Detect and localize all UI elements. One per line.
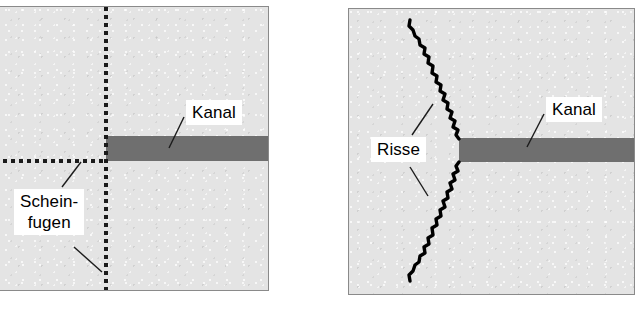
upper-crack <box>409 20 459 139</box>
channel-band-right <box>459 138 634 162</box>
channel-band-left <box>106 136 268 161</box>
label-scheinfugen-line2: fugen <box>28 213 71 232</box>
vertical-dummy-joint <box>104 7 108 290</box>
label-scheinfugen: Schein-fugen <box>14 189 84 235</box>
panel-slab-with-dummy-joints <box>0 6 269 291</box>
panel-left-content <box>0 7 268 290</box>
label-risse: Risse <box>371 137 426 162</box>
label-kanal-left: Kanal <box>186 100 242 125</box>
label-scheinfugen-line1: Schein- <box>20 192 78 211</box>
horizontal-dummy-joint <box>0 159 108 163</box>
lower-crack <box>409 162 459 281</box>
label-kanal-right: Kanal <box>546 97 602 122</box>
